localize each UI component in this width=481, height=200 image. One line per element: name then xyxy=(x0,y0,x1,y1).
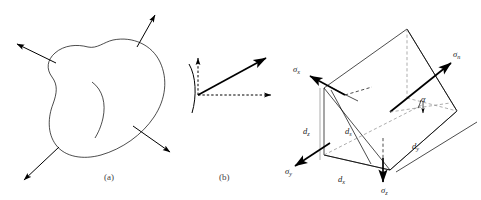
wedge-inclined-face-edges xyxy=(324,29,457,170)
figure-container: σx σn σy σz α dz ds dx dy (a) (b) xyxy=(0,0,481,200)
wedge-bottom-face xyxy=(324,111,457,170)
panel-b-group xyxy=(189,58,271,113)
panel-a-group xyxy=(17,15,170,180)
resultant-stress-arrow xyxy=(198,58,266,95)
traction-arrow-upper-left xyxy=(17,44,56,63)
traction-arrow-lower-right xyxy=(133,126,170,152)
traction-arrow-top xyxy=(137,15,155,47)
label-sigma-n: σn xyxy=(453,49,460,60)
panel-c-labels: σx σn σy σz α dz ds dx dy xyxy=(285,49,460,196)
traction-arrow-lower-left xyxy=(24,147,59,180)
hidden-base-edge xyxy=(324,104,424,155)
body-outline xyxy=(48,39,165,157)
dimension-line-ds xyxy=(331,90,371,164)
label-sigma-z: σz xyxy=(381,185,388,196)
sigma-x-face-axis xyxy=(330,87,358,101)
label-dx: dx xyxy=(338,174,345,185)
wedge-back-edges xyxy=(407,29,457,111)
caption-b: (b) xyxy=(219,172,230,182)
body-interior-curve xyxy=(92,82,104,138)
label-alpha: α xyxy=(421,94,426,104)
sigma-x-axis-dashed xyxy=(345,87,372,95)
caption-a: (a) xyxy=(104,172,114,182)
surface-element-arc xyxy=(189,64,195,113)
label-dy: dy xyxy=(412,141,419,152)
figure-canvas: σx σn σy σz α dz ds dx dy xyxy=(0,0,481,200)
label-dz: dz xyxy=(303,126,310,137)
label-sigma-y: σy xyxy=(285,166,292,177)
panel-c-group xyxy=(295,29,477,182)
label-sigma-x: σx xyxy=(293,64,300,75)
sigma-n-arrow xyxy=(390,63,451,112)
